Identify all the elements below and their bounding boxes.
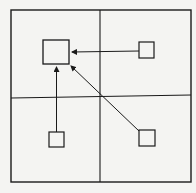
arrow-bottom-right-to-target [71,66,139,131]
bottom-right-box [139,130,155,146]
horizontal-divider [11,95,191,98]
arrow-top-right-to-target [72,51,139,52]
quadrant-diagram [0,0,196,193]
bottom-left-box [49,132,64,147]
target-box [43,40,69,64]
top-right-box [139,42,154,58]
